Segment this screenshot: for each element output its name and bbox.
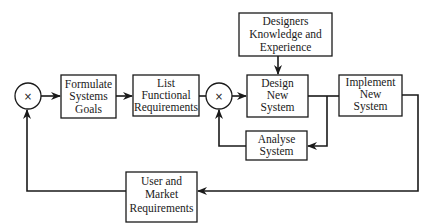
design-process-diagram: × Formulate Systems Goals List Functiona…	[0, 0, 431, 224]
user-market-requirements-box: User and Market Requirements	[126, 172, 197, 222]
svg-text:Market: Market	[145, 188, 179, 200]
svg-text:Requirements: Requirements	[130, 202, 194, 215]
implement-new-system-box: Implement New System	[339, 75, 402, 116]
designers-knowledge-box: Designers Knowledge and Experience	[239, 13, 332, 56]
svg-text:List: List	[157, 77, 176, 89]
svg-text:System: System	[261, 101, 295, 114]
svg-text:User and: User and	[141, 175, 182, 187]
multiply-icon: ×	[215, 91, 223, 102]
multiply-icon: ×	[24, 91, 32, 102]
edge-user-to-sum1	[27, 110, 126, 191]
svg-text:Experience: Experience	[260, 41, 312, 54]
edge-analyse-to-sum2	[219, 110, 246, 146]
formulate-systems-goals-box: Formulate Systems Goals	[61, 75, 116, 118]
svg-text:New: New	[360, 88, 382, 100]
svg-text:New: New	[267, 89, 289, 101]
svg-text:Systems: Systems	[69, 90, 108, 103]
svg-text:Formulate: Formulate	[65, 78, 112, 90]
svg-text:Goals: Goals	[75, 103, 102, 115]
list-functional-requirements-box: List Functional Requirements	[133, 75, 199, 116]
analyse-system-box: Analyse System	[246, 131, 307, 160]
edge-design-to-analyse	[308, 96, 327, 146]
svg-text:System: System	[354, 100, 388, 113]
svg-text:Requirements: Requirements	[134, 101, 198, 114]
svg-text:Designers: Designers	[263, 15, 310, 28]
svg-text:Functional: Functional	[141, 89, 190, 101]
design-new-system-box: Design New System	[247, 75, 308, 117]
summing-junction-2: ×	[206, 83, 232, 109]
svg-text:Knowledge and: Knowledge and	[249, 28, 322, 41]
svg-text:System: System	[260, 145, 294, 158]
summing-junction-1: ×	[15, 83, 41, 109]
